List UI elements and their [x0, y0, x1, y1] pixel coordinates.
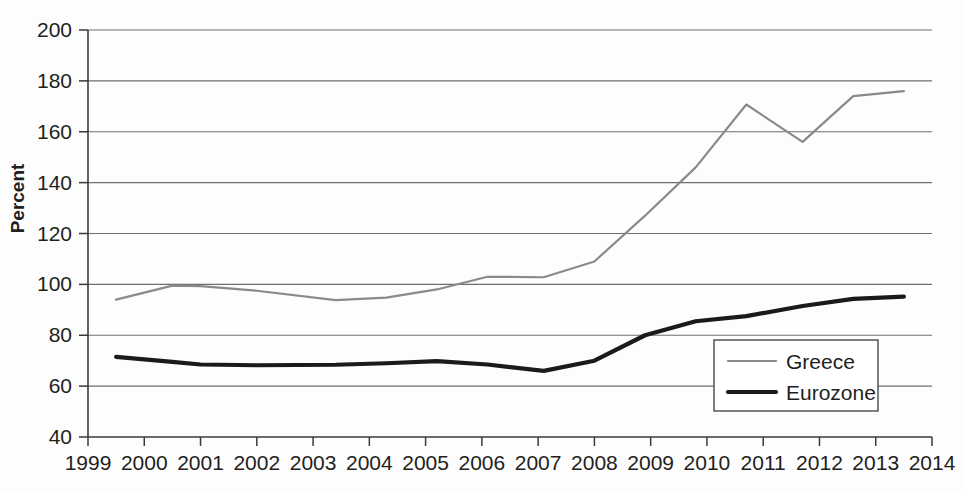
y-tick-label-120: 120 [37, 222, 72, 245]
line-chart: 406080100120140160180200 199920002001200… [0, 0, 965, 492]
x-tick-label-1999: 1999 [65, 451, 112, 474]
x-tick-label-2005: 2005 [402, 451, 449, 474]
x-tick-label-2008: 2008 [571, 451, 618, 474]
x-tick-label-2009: 2009 [627, 451, 674, 474]
x-tick-label-2012: 2012 [796, 451, 843, 474]
y-tick-label-100: 100 [37, 272, 72, 295]
series-line-greece [116, 91, 904, 300]
x-axis-tick-labels: 1999200020012002200320042005200620072008… [65, 451, 956, 474]
x-tick-label-2010: 2010 [684, 451, 731, 474]
x-tick-label-2011: 2011 [741, 451, 786, 474]
y-tick-label-40: 40 [49, 425, 72, 448]
x-tick-label-2004: 2004 [346, 451, 393, 474]
x-tick-label-2013: 2013 [852, 451, 899, 474]
chart-legend: GreeceEurozone [714, 340, 878, 411]
y-axis-tick-labels: 406080100120140160180200 [37, 18, 72, 448]
x-tick-label-2000: 2000 [121, 451, 168, 474]
gridlines-group [88, 30, 932, 386]
x-tick-label-2001: 2001 [177, 451, 224, 474]
chart-figure: 406080100120140160180200 199920002001200… [0, 0, 965, 492]
y-tick-label-200: 200 [37, 18, 72, 41]
data-series-group [116, 91, 904, 371]
x-tick-label-2007: 2007 [515, 451, 562, 474]
y-tick-label-140: 140 [37, 171, 72, 194]
x-tick-label-2002: 2002 [233, 451, 280, 474]
legend-label-greece: Greece [786, 350, 855, 373]
x-tick-label-2003: 2003 [290, 451, 337, 474]
x-tick-label-2014: 2014 [909, 451, 956, 474]
legend-label-eurozone: Eurozone [786, 381, 876, 404]
y-tick-label-180: 180 [37, 69, 72, 92]
y-tick-label-60: 60 [49, 374, 72, 397]
y-axis-title: Percent [7, 163, 28, 233]
y-tick-label-160: 160 [37, 120, 72, 143]
y-tick-label-80: 80 [49, 323, 72, 346]
x-tick-label-2006: 2006 [459, 451, 506, 474]
